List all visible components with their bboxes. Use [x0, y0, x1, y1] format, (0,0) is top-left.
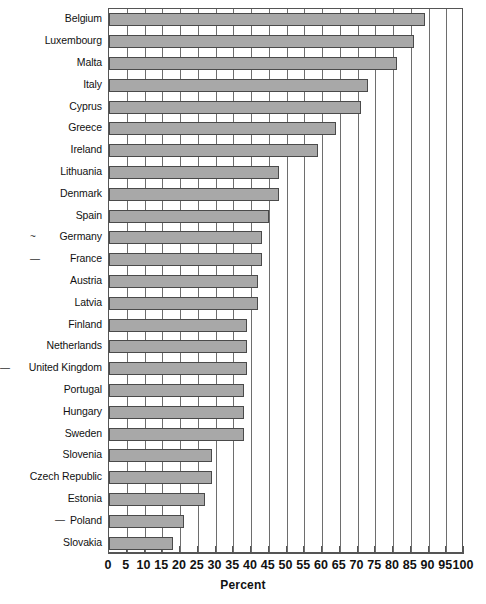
x-tick-label: 85 [403, 558, 417, 572]
x-tick-label: 95 [438, 558, 452, 572]
category-label: Czech Republic [0, 471, 102, 482]
bar [109, 340, 247, 353]
category-label: Finland [0, 319, 102, 330]
bar [109, 493, 205, 506]
gridline [429, 9, 430, 552]
x-tick-label: 90 [421, 558, 435, 572]
bar [109, 428, 244, 441]
x-tick-mark [463, 546, 464, 554]
category-label: Austria [0, 275, 102, 286]
x-tick-mark [268, 546, 269, 554]
category-label: Greece [0, 122, 102, 133]
x-tick-mark [410, 546, 411, 554]
plot-area [108, 8, 463, 553]
bar [109, 449, 212, 462]
category-label: Cyprus [0, 101, 102, 112]
x-tick-mark [428, 546, 429, 554]
category-label: Sweden [0, 428, 102, 439]
x-tick-label: 15 [154, 558, 168, 572]
category-label: Poland [0, 515, 102, 526]
x-tick-label: 55 [296, 558, 310, 572]
x-tick-label: 40 [243, 558, 257, 572]
x-tick-label: 30 [208, 558, 222, 572]
bar-chart: BelgiumLuxembourgMaltaItalyCyprusGreeceI… [0, 0, 486, 604]
category-label: Netherlands [0, 340, 102, 351]
bar [109, 253, 262, 266]
category-label: Portugal [0, 384, 102, 395]
category-label: Ireland [0, 144, 102, 155]
bar [109, 210, 269, 223]
label-annotation-mark: ~ [30, 231, 36, 242]
category-label-column: BelgiumLuxembourgMaltaItalyCyprusGreeceI… [0, 8, 106, 553]
x-tick-mark [215, 546, 216, 554]
x-tick-mark [232, 546, 233, 554]
bar [109, 57, 397, 70]
category-label: Germany [0, 231, 102, 242]
x-tick-mark [339, 546, 340, 554]
category-label: Estonia [0, 493, 102, 504]
category-label: Lithuania [0, 166, 102, 177]
x-tick-mark [179, 546, 180, 554]
x-tick-label: 0 [105, 558, 112, 572]
x-tick-mark [392, 546, 393, 554]
category-label: United Kingdom [0, 362, 102, 373]
bar [109, 166, 279, 179]
category-label: Belgium [0, 13, 102, 24]
gridline [446, 9, 447, 552]
gridline [375, 9, 376, 552]
bar [109, 13, 425, 26]
bar [109, 471, 212, 484]
bar [109, 297, 258, 310]
bar [109, 319, 247, 332]
x-tick-label: 80 [385, 558, 399, 572]
label-annotation-mark: — [30, 253, 40, 264]
x-axis-title: Percent [0, 578, 486, 592]
x-tick-label: 20 [172, 558, 186, 572]
x-tick-label: 75 [367, 558, 381, 572]
category-label: Hungary [0, 406, 102, 417]
x-tick-label: 35 [225, 558, 239, 572]
x-tick-mark [445, 546, 446, 554]
x-tick-mark [197, 546, 198, 554]
bar [109, 79, 368, 92]
category-label: France [0, 253, 102, 264]
x-tick-mark [303, 546, 304, 554]
x-tick-label: 50 [279, 558, 293, 572]
x-tick-label: 100 [453, 558, 474, 572]
x-tick-label: 60 [314, 558, 328, 572]
bar [109, 384, 244, 397]
category-label: Malta [0, 57, 102, 68]
bar [109, 515, 184, 528]
bar [109, 275, 258, 288]
x-tick-mark [250, 546, 251, 554]
category-label: Slovakia [0, 537, 102, 548]
category-label: Spain [0, 210, 102, 221]
x-tick-mark [374, 546, 375, 554]
x-tick-mark [286, 546, 287, 554]
label-annotation-mark: — [0, 362, 10, 373]
bar [109, 122, 336, 135]
bar [109, 231, 262, 244]
bar [109, 101, 361, 114]
bar [109, 188, 279, 201]
bar [109, 35, 414, 48]
x-tick-label: 45 [261, 558, 275, 572]
x-tick-label: 10 [137, 558, 151, 572]
category-label: Luxembourg [0, 35, 102, 46]
bar [109, 406, 244, 419]
x-tick-label: 5 [122, 558, 129, 572]
bar [109, 362, 247, 375]
category-label: Latvia [0, 297, 102, 308]
x-tick-mark [321, 546, 322, 554]
x-tick-label: 70 [350, 558, 364, 572]
x-tick-label: 65 [332, 558, 346, 572]
gridline [393, 9, 394, 552]
category-label: Slovenia [0, 449, 102, 460]
x-tick-mark [357, 546, 358, 554]
bar [109, 144, 318, 157]
label-annotation-mark: — [55, 514, 65, 525]
bar [109, 537, 173, 550]
category-label: Italy [0, 79, 102, 90]
category-label: Denmark [0, 188, 102, 199]
x-tick-label: 25 [190, 558, 204, 572]
